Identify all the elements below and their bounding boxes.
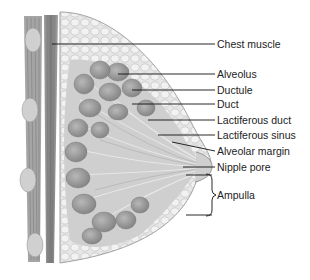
label-alveolus: Alveolus [217, 68, 257, 80]
label-ampulla: Ampulla [217, 189, 255, 201]
label-ductule: Ductule [217, 84, 253, 96]
ampulla-brace [206, 174, 216, 216]
label-nipple-pore: Nipple pore [217, 161, 271, 173]
breast-anatomy-diagram: Chest muscle Alveolus Ductule Duct Lacti… [0, 0, 310, 280]
rib-column [20, 16, 43, 262]
label-lactiferous-sinus: Lactiferous sinus [217, 129, 296, 141]
label-alveolar-margin: Alveolar margin [217, 145, 290, 157]
label-duct: Duct [217, 98, 239, 110]
label-lactiferous-duct: Lactiferous duct [217, 114, 291, 126]
label-chest-muscle: Chest muscle [217, 38, 281, 50]
